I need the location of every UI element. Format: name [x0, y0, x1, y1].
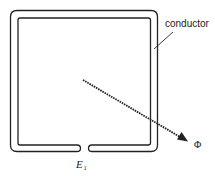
flux-symbol: Φ [194, 139, 201, 150]
flux-arrow-shaft [83, 80, 181, 138]
conductor-inner-edge [18, 18, 151, 145]
emf-symbol: E [75, 158, 83, 170]
gap-right-end [89, 145, 93, 152]
gap-left-end [77, 145, 81, 152]
conductor-loop-diagram: conductor Φ E 1 [0, 0, 215, 176]
flux-arrow [83, 80, 188, 142]
emf-subscript: 1 [84, 164, 87, 171]
conductor-label: conductor [165, 18, 210, 29]
